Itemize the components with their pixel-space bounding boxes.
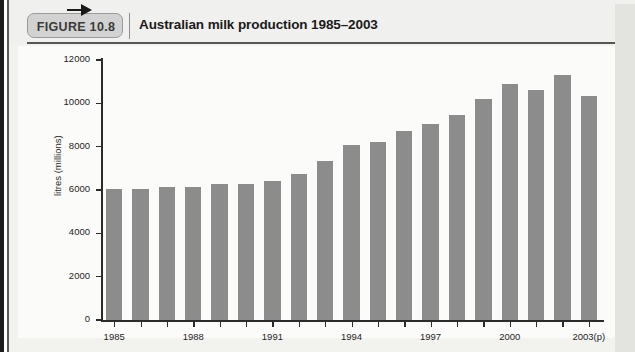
x-tick-label: 2003(p) xyxy=(565,331,613,342)
bar-1989 xyxy=(211,184,227,321)
x-tick-label: 1991 xyxy=(248,331,296,342)
x-tick-mark xyxy=(272,321,273,327)
bar-2001 xyxy=(528,90,544,320)
x-tick-label: 1985 xyxy=(90,331,138,342)
y-tick-label: 0 xyxy=(22,313,90,324)
bar-1996 xyxy=(396,131,412,320)
y-tick-label: 6000 xyxy=(22,183,90,194)
bar-1988 xyxy=(185,187,201,320)
bar-1999 xyxy=(475,99,491,320)
x-tick-mark xyxy=(431,321,432,327)
arrow-right-icon xyxy=(81,4,92,16)
x-tick-mark xyxy=(299,321,300,327)
bar-1986 xyxy=(132,189,148,320)
bar-1985 xyxy=(106,189,122,320)
figure-number-badge: FIGURE 10.8 xyxy=(27,13,123,38)
figure-title: Australian milk production 1985–2003 xyxy=(139,13,378,37)
x-tick-label: 2000 xyxy=(486,331,534,342)
x-tick-mark xyxy=(510,321,511,327)
figure-page: FIGURE 10.8 Australian milk production 1… xyxy=(0,0,635,352)
y-tick-label: 10000 xyxy=(22,96,90,107)
badge-divider xyxy=(129,13,130,39)
bar-1997 xyxy=(422,124,438,320)
y-tick-label: 8000 xyxy=(22,140,90,151)
x-tick-label: 1994 xyxy=(328,331,376,342)
x-tick-mark xyxy=(141,321,142,327)
bar-1992 xyxy=(291,174,307,320)
x-tick-mark xyxy=(378,321,379,327)
bar-1991 xyxy=(264,181,280,320)
bar-2000 xyxy=(502,84,518,320)
x-tick-mark xyxy=(589,321,590,327)
x-tick-mark xyxy=(167,321,168,327)
bar-1995 xyxy=(370,142,386,320)
page-edge-gray xyxy=(7,0,9,352)
x-tick-mark xyxy=(325,321,326,327)
bar-series xyxy=(101,60,604,320)
x-tick-label: 1988 xyxy=(169,331,217,342)
bar-1990 xyxy=(238,184,254,320)
x-tick-mark xyxy=(246,321,247,327)
x-tick-mark xyxy=(352,321,353,327)
bar-1993 xyxy=(317,161,333,320)
x-tick-mark xyxy=(562,321,563,327)
x-tick-label: 1997 xyxy=(407,331,455,342)
bar-1987 xyxy=(159,187,175,320)
figure-number-label: FIGURE 10.8 xyxy=(28,14,124,39)
x-tick-mark xyxy=(404,321,405,327)
bar-2002 xyxy=(554,75,570,320)
y-tick-label: 4000 xyxy=(22,226,90,237)
x-tick-mark xyxy=(457,321,458,327)
x-tick-mark xyxy=(193,321,194,327)
bar-2003(p) xyxy=(581,96,597,320)
title-rule xyxy=(27,42,622,44)
y-tick-label: 12000 xyxy=(22,53,90,64)
x-tick-mark xyxy=(114,321,115,327)
x-tick-mark xyxy=(220,321,221,327)
bar-1994 xyxy=(343,145,359,320)
figure-header: FIGURE 10.8 Australian milk production 1… xyxy=(9,0,635,44)
y-tick-label: 2000 xyxy=(22,270,90,281)
page-right-shadow xyxy=(615,4,635,352)
bar-1998 xyxy=(449,115,465,320)
x-tick-mark xyxy=(536,321,537,327)
x-tick-mark xyxy=(483,321,484,327)
